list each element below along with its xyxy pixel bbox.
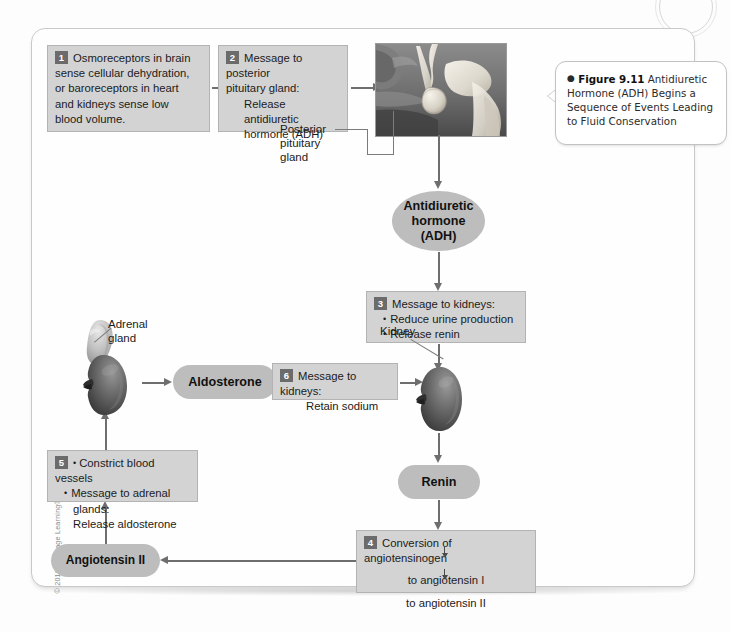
step-number-badge-3: 3 xyxy=(374,297,387,310)
figure-caption: ● Figure 9.11 Antidiuretic Hormone (ADH)… xyxy=(555,61,727,145)
leader-line-pituitary-vertical xyxy=(367,129,368,155)
step-box-5: 5•Constrict blood vessels Message to adr… xyxy=(47,450,198,502)
arrow-head-step4-internal-2 xyxy=(442,575,448,580)
step-box-2: 2Message to posterior pituitary gland: R… xyxy=(218,45,348,132)
step-6-line-2: Retain sodium xyxy=(280,399,390,414)
step-box-1: 1Osmoreceptors in brain sense cellular d… xyxy=(47,45,210,132)
adh-line-3: (ADH) xyxy=(404,229,474,244)
step-4-line-1: Conversion of angiotensinogen xyxy=(364,537,452,564)
label-adrenal-line-1: Adrenal xyxy=(108,317,148,331)
kidney-right-image xyxy=(416,366,464,432)
step-1-line-1: Osmoreceptors in brain xyxy=(73,52,190,64)
step-number-badge-4: 4 xyxy=(364,536,377,549)
step-2-line-2: pituitary gland: xyxy=(226,81,340,96)
label-adrenal-gland: Adrenal gland xyxy=(108,317,148,345)
leader-line-pituitary-horizontal xyxy=(367,154,393,155)
brain-pituitary-image xyxy=(375,43,507,137)
kidney-illustration xyxy=(416,366,464,432)
step-1-line-4: and kidneys sense low xyxy=(55,97,202,112)
arrow-adh-to-step3 xyxy=(438,252,440,285)
arrow-head-renin-to-step4 xyxy=(434,522,442,530)
arrow-renin-to-step4 xyxy=(438,500,440,524)
step-box-6: 6Message to kidneys: Retain sodium xyxy=(272,363,398,400)
label-adrenal-line-2: gland xyxy=(108,331,148,345)
arrow-head-step4-to-angiotensin2 xyxy=(160,556,168,564)
node-angiotensin2: Angiotensin II xyxy=(51,544,160,577)
step-box-4: 4Conversion of angiotensinogen to angiot… xyxy=(356,530,536,593)
arrow-brain-to-adh xyxy=(438,135,440,183)
step-1-line-3: or baroreceptors in heart xyxy=(55,81,202,96)
arrow-head-adrenal-to-aldosterone xyxy=(164,378,172,386)
arrow-adrenal-to-aldosterone xyxy=(142,382,166,384)
brain-pituitary-illustration xyxy=(376,44,506,136)
step-5-bullet-dot-1: • xyxy=(73,458,76,468)
caption-figure-label: Figure 9.11 xyxy=(578,73,644,85)
arrow-step2-to-brain xyxy=(351,87,375,89)
step-1-line-5: blood volume. xyxy=(55,112,202,127)
arrow-head-step6-to-kidney xyxy=(415,378,423,386)
arrow-step4-to-angiotensin2 xyxy=(168,560,356,562)
step-5-line-3: Release aldosterone xyxy=(55,517,190,532)
node-adh: Antidiuretic hormone (ADH) xyxy=(392,191,485,251)
step-number-badge-2: 2 xyxy=(226,51,239,64)
adh-line-2: hormone xyxy=(404,214,474,229)
step-1-line-2: sense cellular dehydration, xyxy=(55,66,202,81)
figure-page: © 2016 Cengage Learning® 1Osmoreceptors … xyxy=(0,0,731,632)
arrow-head-brain-to-adh xyxy=(434,181,442,189)
label-kidney: Kidney xyxy=(380,324,415,338)
step-5-bullet-1: Constrict blood vessels xyxy=(55,457,155,484)
label-posterior-pituitary-line-3: gland xyxy=(280,150,340,164)
node-aldosterone: Aldosterone xyxy=(173,365,277,399)
label-posterior-pituitary-line-2: pituitary xyxy=(280,136,340,150)
caption-bullet: ● xyxy=(567,73,575,83)
arrow-step5-to-adrenal xyxy=(105,417,107,450)
label-posterior-pituitary-line-1: Posterior xyxy=(280,122,340,136)
leader-line-pituitary-up xyxy=(393,111,394,155)
figure-panel: © 2016 Cengage Learning® 1Osmoreceptors … xyxy=(31,28,695,587)
adh-line-1: Antidiuretic xyxy=(404,199,474,214)
step-5-bullet-2: Message to adrenal glands: xyxy=(55,486,190,516)
label-posterior-pituitary-gland: Posterior pituitary gland xyxy=(280,122,340,164)
arrow-head-kidney-to-renin xyxy=(434,455,442,463)
step-number-badge-5: 5 xyxy=(55,456,68,469)
step-number-badge-6: 6 xyxy=(280,369,293,382)
step-2-line-3: Release xyxy=(226,97,340,112)
step-3-line-1: Message to kidneys: xyxy=(392,298,495,310)
arrow-head-adh-to-step3 xyxy=(434,283,442,291)
step-4-line-3: to angiotensin II xyxy=(364,596,528,611)
node-renin: Renin xyxy=(398,465,480,499)
arrow-head-step4-internal-1 xyxy=(442,553,448,558)
step-number-badge-1: 1 xyxy=(55,51,68,64)
